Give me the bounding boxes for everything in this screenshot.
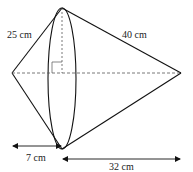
double-cone-diagram: 25 cm 40 cm 7 cm 32 cm xyxy=(0,0,193,172)
label-left-slant: 25 cm xyxy=(7,29,32,40)
right-cone-upper-slant xyxy=(62,8,181,73)
label-right-height: 32 cm xyxy=(109,161,134,172)
right-angle-marker xyxy=(52,62,62,73)
label-left-height: 7 cm xyxy=(26,152,46,163)
right-cone-lower-slant xyxy=(62,73,181,149)
diagram-canvas: 25 cm 40 cm 7 cm 32 cm xyxy=(0,0,193,172)
label-right-slant: 40 cm xyxy=(122,29,147,40)
